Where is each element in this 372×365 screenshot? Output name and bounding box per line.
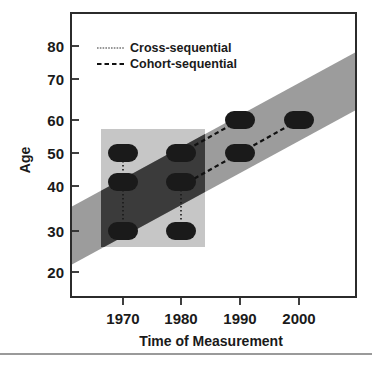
figure-container: 80 70 60 50 40 30 20 1970 1980 1990 2000… xyxy=(0,0,372,365)
y-tick-label-70: 70 xyxy=(47,71,64,88)
x-axis-ticks xyxy=(123,297,299,305)
y-tick-label-40: 40 xyxy=(47,178,64,195)
data-point-2000-60 xyxy=(284,111,314,129)
legend-label-cohort-sequential: Cohort-sequential xyxy=(130,57,237,71)
data-point-1980-50 xyxy=(166,144,196,162)
y-tick-label-60: 60 xyxy=(47,112,64,129)
y-tick-label-20: 20 xyxy=(47,264,64,281)
y-tick-label-80: 80 xyxy=(47,38,64,55)
data-point-1980-40 xyxy=(166,173,196,191)
data-point-1980-30 xyxy=(166,222,196,240)
x-axis-title: Time of Measurement xyxy=(139,333,283,349)
data-point-1970-50 xyxy=(108,144,138,162)
age-by-time-of-measurement-chart: 80 70 60 50 40 30 20 1970 1980 1990 2000… xyxy=(0,0,372,365)
data-point-1970-40 xyxy=(108,173,138,191)
y-axis-tick-labels: 80 70 60 50 40 30 20 xyxy=(47,38,64,281)
legend-label-cross-sequential: Cross-sequential xyxy=(130,41,231,55)
x-tick-label-1980: 1980 xyxy=(164,310,197,327)
y-tick-label-30: 30 xyxy=(47,223,64,240)
x-tick-label-1990: 1990 xyxy=(223,310,256,327)
data-point-1990-60 xyxy=(225,111,255,129)
x-axis-tick-labels: 1970 1980 1990 2000 xyxy=(106,310,315,327)
data-point-1970-30 xyxy=(108,222,138,240)
x-tick-label-2000: 2000 xyxy=(282,310,315,327)
figure-bottom-rule xyxy=(0,353,372,355)
x-tick-label-1970: 1970 xyxy=(106,310,139,327)
data-point-1990-50 xyxy=(225,144,255,162)
y-axis-title: Age xyxy=(17,147,33,174)
y-tick-label-50: 50 xyxy=(47,145,64,162)
